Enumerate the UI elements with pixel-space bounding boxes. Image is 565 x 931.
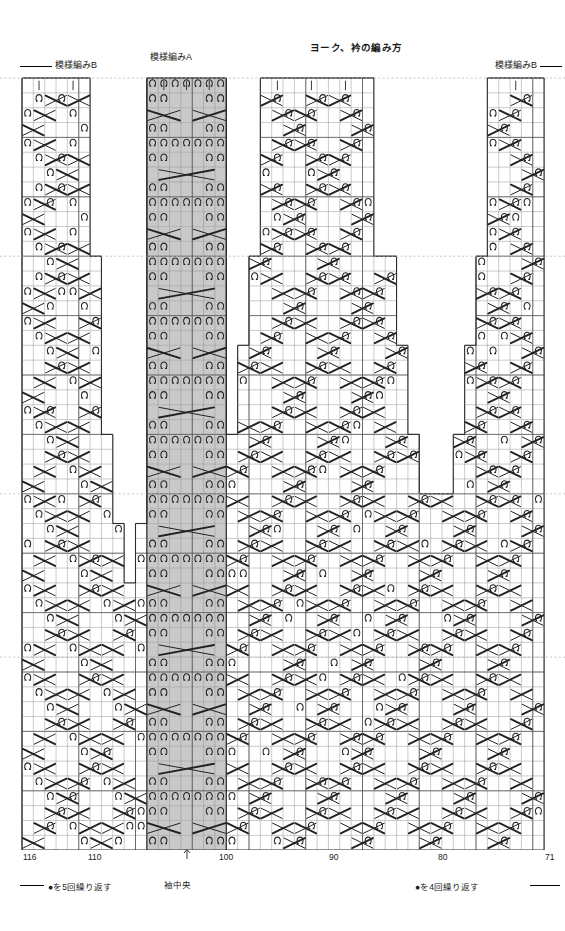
pattern-a-label: 模様編みA xyxy=(150,50,192,63)
axis-tick-100: 100 xyxy=(219,852,233,862)
stitch-number-axis: 116110100908071 xyxy=(0,852,565,868)
axis-tick-116: 116 xyxy=(23,852,37,862)
repeat-right-caption: ●を4回繰り返す xyxy=(415,880,479,892)
axis-tick-80: 80 xyxy=(438,852,447,862)
knitting-chart-page: ヨーク、衿の編み方 模様編みB 模様編みA 模様編みB 116110100908… xyxy=(0,0,565,931)
footer-leader-left xyxy=(20,885,44,886)
repeat-left-caption: ●を5回繰り返す xyxy=(48,880,112,892)
footer-leader-right xyxy=(530,885,560,886)
sleeve-center-arrow-icon xyxy=(180,848,194,860)
axis-tick-110: 110 xyxy=(88,852,102,862)
label-leader-right xyxy=(540,66,562,67)
sleeve-center-caption: 袖中央 xyxy=(164,878,191,890)
chart-svg xyxy=(0,70,565,850)
axis-tick-71: 71 xyxy=(545,852,554,862)
page-title: ヨーク、衿の編み方 xyxy=(310,40,403,54)
stitch-chart-grid xyxy=(0,70,565,850)
label-leader-left xyxy=(20,66,52,67)
axis-tick-90: 90 xyxy=(329,852,338,862)
